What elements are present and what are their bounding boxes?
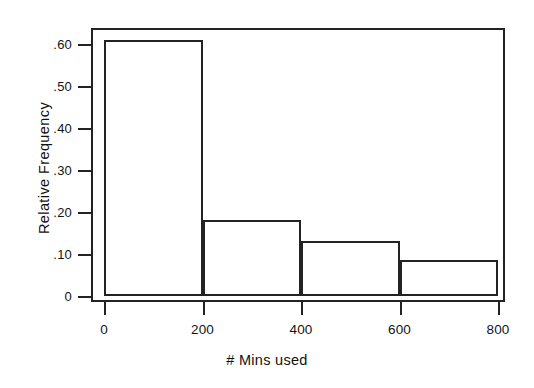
x-tick-mark: [301, 302, 303, 315]
y-tick-mark: [78, 212, 91, 214]
y-tick-label: .20: [26, 205, 72, 220]
x-tick-mark: [203, 302, 205, 315]
y-tick-label: .60: [26, 37, 72, 52]
y-tick-label: .30: [26, 163, 72, 178]
x-tick-mark: [498, 302, 500, 315]
y-tick-label: 0: [26, 289, 72, 304]
y-tick-mark: [78, 44, 91, 46]
y-tick-mark: [78, 296, 91, 298]
x-axis-title: # Mins used: [0, 352, 534, 368]
histogram-figure: Relative Frequency 0.10.20.30.40.50.60 0…: [0, 0, 534, 388]
y-tick-mark: [78, 86, 91, 88]
plot-frame: [91, 28, 505, 302]
y-tick-mark: [78, 254, 91, 256]
x-tick-label: 600: [365, 322, 435, 337]
x-tick-mark: [104, 302, 106, 315]
x-tick-label: 400: [266, 322, 336, 337]
y-tick-mark: [78, 170, 91, 172]
y-tick-label: .50: [26, 79, 72, 94]
x-tick-mark: [400, 302, 402, 315]
y-tick-mark: [78, 128, 91, 130]
x-tick-label: 800: [463, 322, 533, 337]
y-tick-label: .40: [26, 121, 72, 136]
x-tick-label: 200: [168, 322, 238, 337]
y-tick-label: .10: [26, 247, 72, 262]
x-tick-label: 0: [69, 322, 139, 337]
